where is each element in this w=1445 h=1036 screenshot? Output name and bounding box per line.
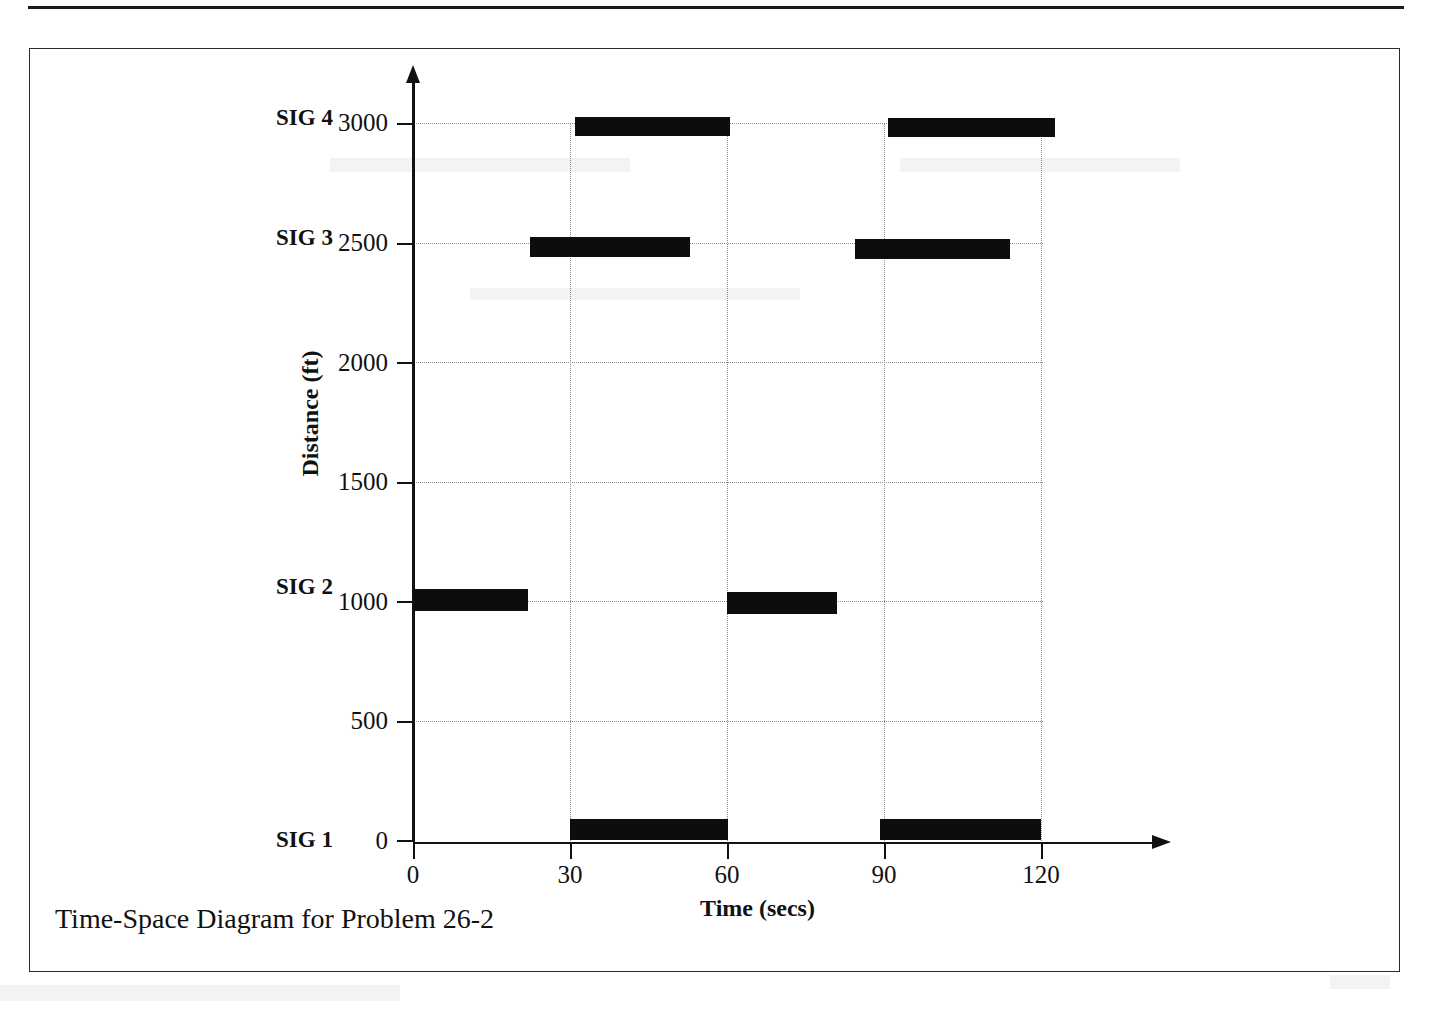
scan-artifact (470, 288, 800, 300)
scan-artifact (330, 158, 630, 172)
page-top-rule (28, 6, 1404, 9)
figure-caption: Time-Space Diagram for Problem 26-2 (55, 903, 494, 935)
scan-artifact (0, 985, 400, 1001)
x-axis-title-text: Time (secs) (700, 895, 815, 922)
figure-frame (29, 48, 1400, 972)
y-axis-title: Distance (ft) (297, 314, 324, 514)
scan-artifact (1330, 975, 1390, 989)
scan-artifact (900, 158, 1180, 172)
